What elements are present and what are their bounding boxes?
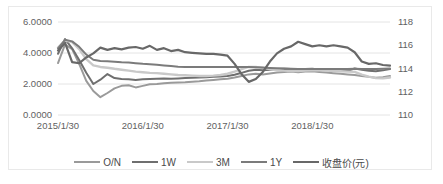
chart-legend: O/N1W3M1Y收盘价(元) <box>0 152 443 172</box>
legend-swatch-icon <box>132 161 158 163</box>
left-axis-tick-label: 4.0000 <box>4 47 52 58</box>
legend-item-O/N[interactable]: O/N <box>74 157 121 168</box>
legend-item-1Y[interactable]: 1Y <box>241 157 282 168</box>
x-axis-tick-label: 2016/1/30 <box>98 120 188 131</box>
right-axis-tick-label: 114 <box>398 63 432 74</box>
legend-item-3M[interactable]: 3M <box>187 157 230 168</box>
legend-item-1W[interactable]: 1W <box>132 157 176 168</box>
right-axis-tick-label: 116 <box>398 39 432 50</box>
right-axis-tick-label: 112 <box>398 86 432 97</box>
legend-swatch-icon <box>187 161 213 163</box>
legend-label: O/N <box>103 157 121 168</box>
legend-label: 3M <box>216 157 230 168</box>
left-axis-tick-label: 0.0000 <box>4 109 52 120</box>
x-axis-tick-label: 2018/1/30 <box>267 120 357 131</box>
legend-swatch-icon <box>241 161 267 163</box>
legend-label: 收盘价(元) <box>322 155 369 170</box>
left-axis-tick-label: 2.0000 <box>4 78 52 89</box>
legend-swatch-icon <box>293 161 319 163</box>
x-axis-tick-label: 2015/1/30 <box>13 120 103 131</box>
chart-container: O/N1W3M1Y收盘价(元) 0.00002.00004.00006.0000… <box>0 0 443 184</box>
legend-item-收盘价(元)[interactable]: 收盘价(元) <box>293 155 369 170</box>
legend-swatch-icon <box>74 161 100 163</box>
right-axis-tick-label: 110 <box>398 109 432 120</box>
x-axis-tick-label: 2017/1/30 <box>183 120 273 131</box>
legend-label: 1Y <box>270 157 282 168</box>
right-axis-tick-label: 118 <box>398 16 432 27</box>
left-axis-tick-label: 6.0000 <box>4 16 52 27</box>
legend-label: 1W <box>161 157 176 168</box>
